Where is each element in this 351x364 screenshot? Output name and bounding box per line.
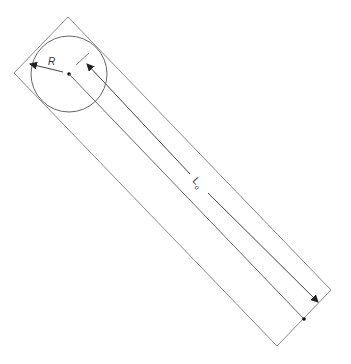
diagram-canvas: R L o — [0, 0, 351, 364]
radius-label: R — [48, 56, 55, 67]
end-point — [302, 317, 306, 321]
figure-caption — [0, 356, 351, 364]
length-dimension-line-upper — [87, 64, 190, 174]
radius-arrow — [30, 64, 63, 72]
length-dimension-line-lower — [208, 193, 318, 302]
dimension-tick — [76, 53, 89, 65]
centerline — [69, 74, 304, 319]
length-label: L o — [189, 175, 205, 191]
